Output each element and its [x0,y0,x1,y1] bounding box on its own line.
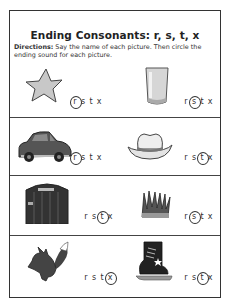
gate-icon [24,180,70,224]
answer-choices: rstx [71,97,103,106]
item-fox: rstx [10,237,116,292]
item-star: rstx [10,63,116,118]
glass-icon [144,66,170,106]
choice-x[interactable]: x [106,212,114,221]
fox-icon [24,239,70,283]
answer-choices: rstx [71,153,103,162]
item-hat: rstx [116,119,222,174]
answer-choices: rstx [182,97,214,106]
choice-x[interactable]: x [206,97,214,106]
directions-label: Directions: [14,43,53,51]
worksheet-row-4: rstx rstx [10,237,220,292]
worksheet-page: Ending Consonants: r, s, t, x Directions… [9,10,221,298]
choice-t[interactable]: t [198,97,206,106]
grass-icon [140,189,172,219]
item-car: rstx [10,119,116,174]
choice-t[interactable]: t [198,153,206,162]
hat-icon [126,131,174,161]
answer-choices: rstx [82,273,114,282]
choice-s[interactable]: s [79,97,87,106]
choice-x[interactable]: x [95,97,103,106]
choice-t[interactable]: t [87,97,95,106]
answer-choices: rstx [182,273,214,282]
item-gate: rstx [10,177,116,232]
item-glass: rstx [116,63,222,118]
choice-r[interactable]: r [82,273,90,282]
choice-s[interactable]: s [190,212,198,221]
worksheet-row-2: rstx rstx [10,119,220,174]
choice-r[interactable]: r [71,153,79,162]
choice-x[interactable]: x [106,273,114,282]
directions: Directions: Say the name of each picture… [14,43,216,59]
row-divider [10,117,220,118]
choice-s[interactable]: s [190,97,198,106]
item-grass: rstx [116,177,222,232]
answer-choices: rstx [182,153,214,162]
skate-icon [134,240,174,282]
choice-r[interactable]: r [82,212,90,221]
choice-x[interactable]: x [206,153,214,162]
choice-x[interactable]: x [206,273,214,282]
worksheet-title: Ending Consonants: r, s, t, x [10,29,220,41]
choice-x[interactable]: x [206,212,214,221]
row-divider [10,235,220,236]
choice-t[interactable]: t [98,212,106,221]
choice-s[interactable]: s [79,153,87,162]
worksheet-row-1: rstx rstx [10,63,220,118]
choice-r[interactable]: r [71,97,79,106]
choice-t[interactable]: t [198,212,206,221]
choice-r[interactable]: r [182,273,190,282]
choice-x[interactable]: x [95,153,103,162]
answer-choices: rstx [182,212,214,221]
row-divider [10,175,220,176]
choice-t[interactable]: t [198,273,206,282]
choice-r[interactable]: r [182,153,190,162]
answer-choices: rstx [82,212,114,221]
star-icon [24,67,64,105]
item-skate: rstx [116,237,222,292]
choice-t[interactable]: t [87,153,95,162]
worksheet-row-3: rstx rstx [10,177,220,232]
car-icon [15,129,73,165]
choice-s[interactable]: s [90,273,98,282]
